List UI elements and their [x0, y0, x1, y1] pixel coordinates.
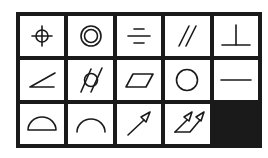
- cell-parallelism: Parallelism: [165, 16, 209, 56]
- cell-profile-of-line: Profile of a line: [68, 104, 112, 144]
- angularity-icon: [22, 63, 62, 97]
- symbol-table: Position Concentricity Symmetry Parallel…: [16, 12, 262, 148]
- cell-circular-runout: Circular runout: [117, 104, 161, 144]
- circularity-icon: [167, 63, 207, 97]
- profile-of-surface-icon: [22, 107, 62, 141]
- position-icon: [22, 19, 62, 53]
- total-runout-icon: [167, 107, 207, 141]
- straightness-icon: [216, 63, 256, 97]
- flatness-icon: [119, 63, 159, 97]
- cell-straightness: Straightness: [214, 60, 258, 100]
- profile-of-line-icon: [71, 107, 111, 141]
- cell-circularity: Circularity: [165, 60, 209, 100]
- cell-flatness: Flatness: [117, 60, 161, 100]
- cell-concentricity: Concentricity: [68, 16, 112, 56]
- cell-profile-of-surface: Profile of a surface: [20, 104, 64, 144]
- cell-position: Position: [20, 16, 64, 56]
- cell-symmetry: Symmetry: [117, 16, 161, 56]
- symmetry-icon: [119, 19, 159, 53]
- circular-runout-icon: [119, 107, 159, 141]
- cell-total-runout: Total runout: [165, 104, 209, 144]
- perpendicularity-icon: [216, 19, 256, 53]
- cylindricity-icon: [71, 63, 111, 97]
- cell-empty-filled: [214, 104, 258, 144]
- cell-angularity: Angularity: [20, 60, 64, 100]
- concentricity-icon: [71, 19, 111, 53]
- cell-cylindricity: Cylindricity: [68, 60, 112, 100]
- cell-perpendicularity: Perpendicularity: [214, 16, 258, 56]
- parallelism-icon: [167, 19, 207, 53]
